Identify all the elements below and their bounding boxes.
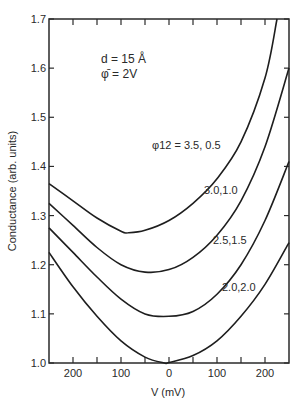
y-tick-label: 1.6 <box>31 62 46 74</box>
curve-label-3p5-0p5: φ12 = 3.5, 0.5 <box>152 139 221 151</box>
annotation-barrier-height: φ̄ = 2V <box>101 67 137 81</box>
y-tick-label: 1.3 <box>31 210 46 222</box>
conductance-chart: 1.01.11.21.31.41.51.61.7 2001000100200 C… <box>0 0 304 405</box>
curve-label-2p5-1p5: 2.5,1.5 <box>213 234 247 246</box>
y-tick-label: 1.1 <box>31 308 46 320</box>
annotation-thickness: d = 15 Å <box>101 51 146 66</box>
y-tick-label: 1.4 <box>31 160 46 172</box>
curve-series-1 <box>49 68 289 272</box>
x-tick-label: 0 <box>166 367 172 379</box>
curve-label-3p0-1p0: 3.0,1.0 <box>204 184 238 196</box>
x-tick-label: 200 <box>64 367 82 379</box>
y-tick-label: 1.2 <box>31 259 46 271</box>
x-tick-label: 100 <box>112 367 130 379</box>
x-tick-label: 100 <box>208 367 226 379</box>
y-tick-label: 1.7 <box>31 13 46 25</box>
y-tick-label: 1.0 <box>31 357 46 369</box>
curves <box>49 19 289 364</box>
x-tick-label: 200 <box>256 367 274 379</box>
curve-series-0 <box>49 19 277 233</box>
plot-frame <box>49 19 289 363</box>
curve-label-2p0-2p0: 2.0,2.0 <box>222 281 256 293</box>
curve-series-2 <box>49 162 289 317</box>
y-axis-title: Conductance (arb. units) <box>6 131 18 251</box>
curve-series-3 <box>49 243 289 364</box>
x-axis-title: V (mV) <box>151 386 185 398</box>
y-tick-label: 1.5 <box>31 111 46 123</box>
